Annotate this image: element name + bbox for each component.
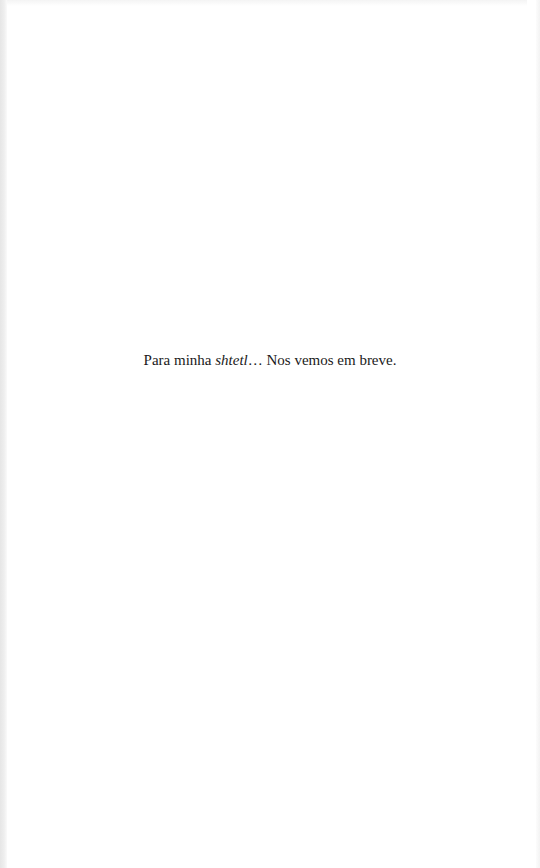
page-edge-shadow <box>536 0 540 868</box>
dedication-italic-word: shtetl <box>215 352 248 368</box>
dedication-text: Para minha shtetl… Nos vemos em breve. <box>0 351 540 369</box>
dedication-ellipsis: … <box>248 352 263 368</box>
page-gutter-shadow <box>0 0 7 868</box>
scan-bleed-through <box>7 0 527 6</box>
dedication-suffix: Nos vemos em breve. <box>263 352 397 368</box>
dedication-prefix: Para minha <box>144 352 216 368</box>
book-page: Para minha shtetl… Nos vemos em breve. <box>0 0 540 868</box>
